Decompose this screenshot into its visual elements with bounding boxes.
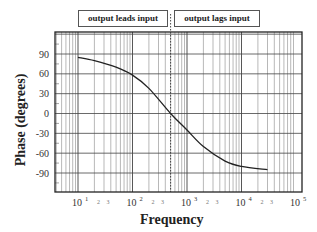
svg-text:10: 10 (181, 197, 191, 208)
x-minor-tick-label: 2 (151, 199, 154, 205)
x-minor-tick-label: 3 (216, 199, 219, 205)
x-tick-label: 104 (236, 195, 253, 208)
svg-text:5: 5 (303, 195, 306, 202)
x-axis-label: Frequency (140, 212, 204, 228)
x-minor-tick-label: 3 (161, 199, 164, 205)
svg-text:10: 10 (236, 197, 246, 208)
svg-text:10: 10 (72, 197, 82, 208)
phase-plot: 9060300-30-60-9010123102231032310423105 (0, 0, 317, 232)
svg-text:10: 10 (127, 197, 137, 208)
x-tick-label: 103 (181, 195, 197, 208)
grid (55, 32, 302, 192)
svg-text:3: 3 (194, 195, 197, 202)
svg-text:10: 10 (290, 197, 300, 208)
x-tick-label: 102 (127, 195, 143, 208)
y-axis-label: Phase (degrees) (1, 60, 41, 180)
x-minor-tick-label: 2 (260, 199, 263, 205)
x-minor-tick-label: 3 (270, 199, 273, 205)
x-minor-tick-label: 3 (107, 199, 110, 205)
x-tick-label: 101 (72, 195, 88, 208)
y-tick-label: 90 (39, 49, 49, 60)
x-minor-tick-label: 2 (206, 199, 209, 205)
svg-text:1: 1 (85, 195, 88, 202)
x-minor-tick-label: 2 (97, 199, 100, 205)
svg-text:4: 4 (249, 195, 253, 202)
x-tick-label: 105 (290, 195, 306, 208)
y-tick-label: 0 (44, 108, 49, 119)
svg-text:2: 2 (140, 195, 143, 202)
